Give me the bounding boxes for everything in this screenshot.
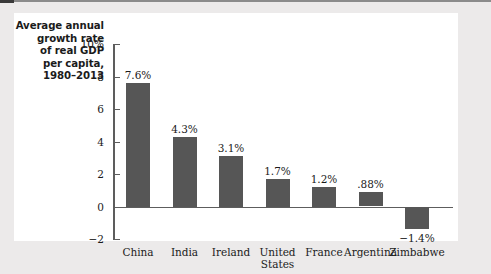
chart-figure: Average annual growth rate of real GDP p… [0, 0, 491, 274]
y-tick-mark [113, 77, 120, 78]
caption-line-5: 1980–2013 [6, 70, 104, 83]
y-tick-mark [113, 109, 120, 110]
bar-value-label: 7.6% [125, 69, 152, 81]
x-axis-label-line: Zimbabwe [389, 246, 445, 258]
y-tick-label: 4 [97, 136, 104, 148]
x-axis-label-line: France [305, 246, 342, 258]
x-axis-label-line: States [259, 258, 295, 270]
x-axis-label-line: Ireland [212, 246, 250, 258]
x-axis-label-united-states: UnitedStates [259, 246, 295, 270]
bar-value-label: 4.3% [171, 123, 198, 135]
bar-ireland [219, 156, 243, 206]
x-axis-label-ireland: Ireland [212, 246, 250, 258]
bar-value-label: 1.2% [311, 173, 338, 185]
x-axis-label-line: United [259, 246, 295, 258]
bar-zimbabwe [405, 207, 429, 230]
plot-area: 10%86420−2 7.6%4.3%3.1%1.7%1.2%.88%−1.4% [113, 44, 453, 239]
zero-baseline [113, 207, 453, 208]
x-axis-label-line: China [122, 246, 153, 258]
y-tick-mark [113, 44, 120, 45]
bar-china [126, 83, 150, 207]
y-tick-label: 8 [97, 71, 104, 83]
bar-value-label: 3.1% [218, 142, 245, 154]
bar-argentina [359, 192, 383, 206]
x-axis-label-china: China [122, 246, 153, 258]
chart-caption: Average annual growth rate of real GDP p… [6, 20, 104, 83]
bar-united-states [266, 179, 290, 207]
x-axis-label-zimbabwe: Zimbabwe [389, 246, 445, 258]
y-tick-label: −2 [89, 233, 104, 245]
y-tick-mark [113, 207, 120, 208]
y-tick-label: 10% [81, 38, 104, 50]
x-axis-label-line: India [171, 246, 198, 258]
figure-top-rule [0, 0, 491, 2]
caption-line-4: per capita, [6, 58, 104, 71]
bar-value-label: −1.4% [399, 232, 434, 244]
caption-line-1: Average annual [6, 20, 104, 33]
y-tick-label: 0 [97, 201, 104, 213]
x-axis-label-france: France [305, 246, 342, 258]
y-tick-mark [113, 239, 120, 240]
bar-value-label: 1.7% [264, 165, 291, 177]
bar-value-label: .88% [357, 178, 384, 190]
y-tick-label: 6 [97, 103, 104, 115]
x-axis-label-india: India [171, 246, 198, 258]
bar-france [312, 187, 336, 207]
y-tick-label: 2 [97, 168, 104, 180]
bar-india [173, 137, 197, 207]
y-tick-mark [113, 174, 120, 175]
figure-corner-mark [0, 0, 14, 3]
y-tick-mark [113, 142, 120, 143]
